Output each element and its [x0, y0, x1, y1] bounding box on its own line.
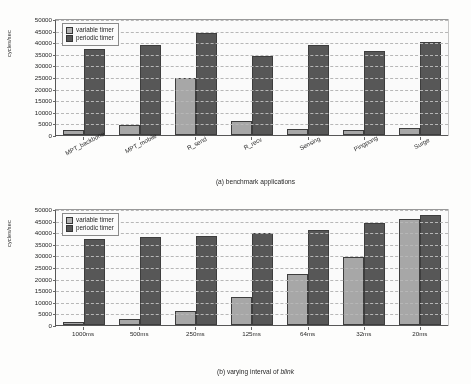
x-tick-label: Surge [413, 136, 431, 150]
x-tick-cell: 32ms [336, 328, 392, 368]
x-tick-cell: 1000ms [55, 328, 111, 368]
bar-variable [399, 219, 420, 325]
bar-periodic [420, 215, 441, 325]
y-tick-label: 5000 [38, 311, 52, 317]
gridline [56, 210, 448, 211]
y-tick-label: 45000 [35, 219, 52, 225]
gridline [56, 314, 448, 315]
y-tick-mark [53, 303, 56, 304]
bar-variable [175, 311, 196, 325]
y-tick-mark [53, 113, 56, 114]
caption-b: (b) varying interval of blink [0, 368, 471, 375]
y-tick-label: 50000 [35, 207, 52, 213]
chart-benchmark-applications: cycles/sec 50000450004000035000300002500… [0, 2, 471, 194]
chart-varying-interval: cycles/sec 50000450004000035000300002500… [0, 192, 471, 384]
legend-swatch-periodic-icon [66, 35, 73, 42]
x-tick-cell: MPT_backbone [55, 138, 111, 178]
bar-variable [119, 125, 140, 135]
y-tick-mark [53, 136, 56, 137]
gridline [56, 55, 448, 56]
x-tick-cell: Pingpong [336, 138, 392, 178]
legend-label-variable-b: variable timer [76, 216, 114, 224]
gridline [56, 280, 448, 281]
gridline [56, 66, 448, 67]
legend-swatch-periodic-icon [66, 225, 73, 232]
x-tick-cell: Sensing [280, 138, 336, 178]
gridline [56, 78, 448, 79]
x-tick-label: 250ms [186, 330, 205, 337]
bar-variable [175, 78, 196, 135]
plot-wrapper-a: cycles/sec 50000450004000035000300002500… [0, 2, 471, 162]
y-tick-label: 10000 [35, 110, 52, 116]
x-tick-cell: MPT_mobile [111, 138, 167, 178]
caption-b-italic: blink [280, 368, 294, 375]
gridline [56, 256, 448, 257]
gridline [56, 303, 448, 304]
bar-periodic [84, 49, 105, 135]
legend-item-variable-b: variable timer [66, 216, 114, 224]
x-tick-cell: Surge [392, 138, 448, 178]
x-tick-label: 125ms [242, 330, 261, 337]
y-tick-mark [53, 245, 56, 246]
bar-variable [287, 129, 308, 135]
y-tick-mark [53, 55, 56, 56]
legend-item-periodic-a: periodic timer [66, 34, 114, 42]
bar-periodic [252, 56, 273, 135]
caption-a: (a) benchmark applications [0, 178, 471, 185]
x-tick-cell: R_recv [223, 138, 279, 178]
x-tick-label: 500ms [130, 330, 149, 337]
y-tick-label: 0 [49, 323, 52, 329]
bar-periodic [84, 239, 105, 325]
y-tick-mark [53, 268, 56, 269]
y-tick-label: 25000 [35, 265, 52, 271]
x-tick-cell: 500ms [111, 328, 167, 368]
y-tick-mark [53, 20, 56, 21]
y-tick-label: 30000 [35, 253, 52, 259]
x-tick-label: Sensing [298, 135, 321, 152]
y-tick-label: 20000 [35, 87, 52, 93]
y-tick-label: 5000 [38, 121, 52, 127]
x-tick-cell: 64ms [280, 328, 336, 368]
y-tick-mark [53, 43, 56, 44]
y-tick-mark [53, 78, 56, 79]
bar-variable [231, 297, 252, 325]
y-tick-label: 15000 [35, 98, 52, 104]
bar-variable [231, 121, 252, 135]
y-tick-label: 40000 [35, 40, 52, 46]
y-tick-label: 10000 [35, 300, 52, 306]
x-axis-labels-b: 1000ms500ms250ms125ms64ms32ms20ms [55, 328, 448, 368]
caption-b-text: (b) varying interval of [217, 368, 280, 375]
y-tick-label: 50000 [35, 17, 52, 23]
y-tick-mark [53, 210, 56, 211]
y-tick-mark [53, 90, 56, 91]
y-tick-label: 0 [49, 133, 52, 139]
legend-item-periodic-b: periodic timer [66, 224, 114, 232]
bar-periodic [196, 33, 217, 135]
y-tick-mark [53, 280, 56, 281]
gridline [56, 90, 448, 91]
y-tick-label: 45000 [35, 29, 52, 35]
y-tick-mark [53, 233, 56, 234]
y-axis-label-b: cycles/sec [6, 220, 12, 247]
gridline [56, 124, 448, 125]
plot-border-right-a [448, 19, 449, 136]
bar-variable [63, 130, 84, 135]
bar-variable [119, 319, 140, 325]
y-tick-mark [53, 32, 56, 33]
plot-wrapper-b: cycles/sec 50000450004000035000300002500… [0, 192, 471, 352]
y-tick-mark [53, 326, 56, 327]
legend-label-periodic-b: periodic timer [76, 224, 114, 232]
x-axis-labels-a: MPT_backboneMPT_mobileR_sendR_recvSensin… [55, 138, 448, 178]
y-tick-label: 30000 [35, 63, 52, 69]
gridline [56, 20, 448, 21]
y-axis-ticks-a: 5000045000400003500030000250002000015000… [18, 2, 52, 136]
plot-border-right-b [448, 209, 449, 326]
legend-swatch-variable-icon [66, 27, 73, 34]
x-tick-cell: 20ms [392, 328, 448, 368]
y-tick-label: 40000 [35, 230, 52, 236]
y-tick-mark [53, 314, 56, 315]
y-tick-mark [53, 256, 56, 257]
y-tick-mark [53, 222, 56, 223]
bar-periodic [364, 51, 385, 135]
y-axis-ticks-b: 5000045000400003500030000250002000015000… [18, 192, 52, 326]
